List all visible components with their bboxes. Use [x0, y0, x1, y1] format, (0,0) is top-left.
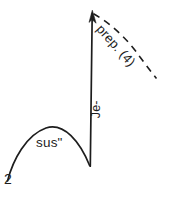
vertical-arrow-stem — [90, 14, 92, 167]
label-sus: sus" — [36, 136, 63, 150]
label-je: Je- — [90, 100, 103, 118]
figure-canvas: prep. (4) Je- sus" 2 — [0, 0, 170, 197]
diagram-strokes — [0, 0, 170, 197]
figure-index-number: 2 — [4, 172, 12, 186]
